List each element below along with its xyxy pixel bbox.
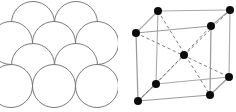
- atom-corner-front-bottom-left: [134, 97, 142, 105]
- cell-edge-back-bottom: [156, 77, 229, 84]
- sphere-packing-panel: [0, 0, 118, 112]
- cell-edge-back-top: [158, 10, 230, 11]
- cell-edge-back-right: [229, 10, 230, 77]
- atom-corner-front-bottom-right: [206, 91, 214, 99]
- unit-cell-diagram: [118, 0, 236, 112]
- cell-edge-front-top: [136, 26, 211, 33]
- cell-edge-back-left: [156, 11, 158, 84]
- sphere-bottom-row-far: [76, 65, 119, 108]
- cell-edge-front-bottom: [138, 95, 210, 101]
- cell-edge-front-right: [210, 26, 211, 95]
- atom-body-center-atom: [180, 51, 188, 59]
- atom-corner-front-top-left: [132, 29, 140, 37]
- unit-cell-panel: [118, 0, 236, 112]
- cell-edge-connect-top-left: [136, 11, 158, 33]
- sphere-packing-diagram: [0, 0, 118, 112]
- atom-corner-back-top-left: [154, 7, 162, 15]
- atom-corner-front-top-right: [207, 22, 215, 30]
- sphere-bottom-row-right: [33, 65, 76, 108]
- bcc-structure-figure: [0, 0, 236, 112]
- cell-edge-front-left: [136, 33, 138, 101]
- atom-corner-back-top-right: [226, 6, 234, 14]
- atom-corner-back-bottom-left: [152, 80, 160, 88]
- atom-corner-back-bottom-right: [225, 73, 233, 81]
